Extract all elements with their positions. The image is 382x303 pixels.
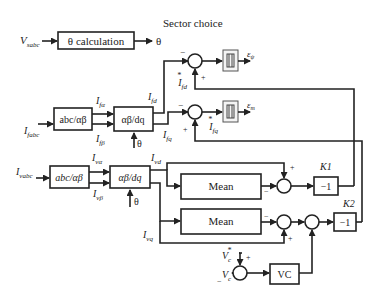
- sign-minus-1: −: [180, 47, 185, 57]
- sum-junction-5: [305, 215, 319, 229]
- label-i-fd: Ifd: [147, 91, 157, 105]
- voltage-controller-label: VC: [278, 269, 292, 280]
- label-theta-f: θ: [137, 138, 142, 149]
- label-vc: Vc: [222, 269, 232, 283]
- label-i-v-beta: Ivβ: [92, 188, 103, 202]
- sum-junction-3: [277, 179, 291, 193]
- theta-calculation-label: θ calculation: [68, 35, 125, 47]
- abc-alphabeta-v-label: abc/αβ: [55, 172, 82, 183]
- sign-plus-3: +: [290, 163, 295, 172]
- sign-minus-3: −: [264, 187, 269, 196]
- sum-junction-2: [188, 105, 202, 119]
- control-block-diagram: Sector choice Vsabc θ calculation θ Ifab…: [0, 0, 382, 303]
- label-i-fq-ref: Ifq*: [208, 115, 218, 135]
- sign-minus-5: −: [217, 277, 222, 286]
- sum-junction-1: [188, 54, 202, 68]
- gain-k1-value: −1: [321, 181, 332, 192]
- sign-plus-1: +: [201, 73, 206, 82]
- label-k2: K2: [342, 198, 355, 209]
- label-i-fabc: Ifabc: [23, 125, 40, 139]
- label-epsilon-m: εm: [247, 100, 256, 111]
- mean-1-label: Mean: [208, 180, 234, 192]
- hysteresis-comparator-1: [223, 50, 238, 71]
- label-i-vq: Ivq: [142, 229, 153, 243]
- sign-plus-2: +: [183, 125, 188, 134]
- sign-minus-2: −: [178, 100, 183, 110]
- hysteresis-comparator-2: [223, 101, 238, 122]
- label-epsilon-psi: εψ: [247, 49, 255, 60]
- sum-junction-4: [277, 215, 291, 229]
- label-i-vd: Ivd: [150, 152, 161, 166]
- sum-junction-6: [233, 266, 247, 280]
- alphabeta-dq-f-label: αβ/dq: [121, 114, 144, 125]
- mean-2-label: Mean: [208, 215, 234, 227]
- label-i-fd-ref: Ifd*: [177, 71, 187, 91]
- label-i-vabc: Ivabc: [15, 166, 33, 180]
- label-i-v-alpha: Ivα: [91, 152, 102, 166]
- sign-plus-5: +: [246, 253, 251, 262]
- abc-alphabeta-f-label: abc/αβ: [60, 114, 87, 125]
- label-i-fq: Ifq: [162, 129, 172, 143]
- label-theta-v: θ: [134, 196, 139, 207]
- gain-k2-value: −1: [340, 217, 351, 228]
- sign-minus-4: −: [264, 212, 269, 221]
- label-k1: K1: [319, 161, 332, 172]
- label-v-sabc: Vsabc: [20, 34, 40, 49]
- alphabeta-dq-v-label: αβ/dq: [118, 172, 141, 183]
- sign-plus-4: +: [288, 234, 293, 243]
- label-theta-out: θ: [156, 35, 161, 47]
- label-i-f-alpha: Ifα: [95, 95, 105, 109]
- label-vc-ref: Vc*: [222, 246, 232, 264]
- label-i-f-beta: Ifβ: [95, 133, 105, 147]
- diagram-title: Sector choice: [163, 17, 223, 29]
